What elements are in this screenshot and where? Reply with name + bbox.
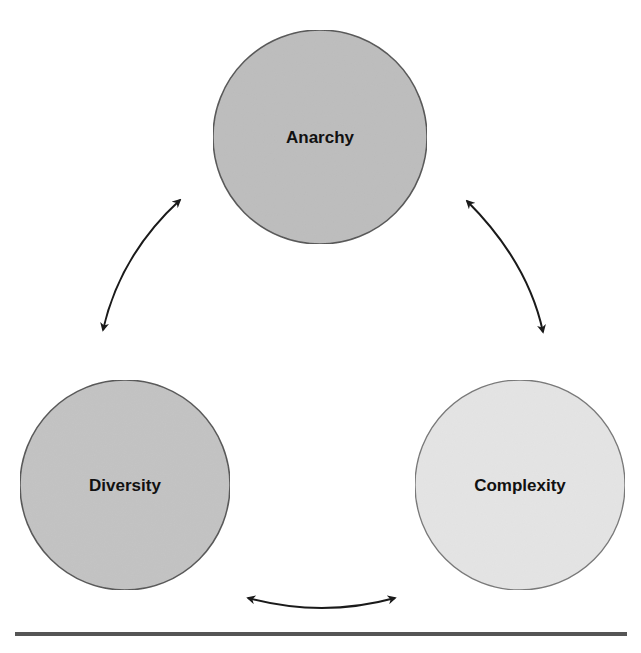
diversity-label: Diversity: [89, 476, 161, 495]
node-diversity: Diversity: [20, 380, 230, 590]
cycle-diagram: Anarchy Diversity Complexity: [0, 0, 641, 653]
complexity-label: Complexity: [474, 476, 566, 495]
bidirectional-arrow-diversity-complexity: [248, 598, 395, 608]
bottom-rule: [15, 632, 627, 636]
node-complexity: Complexity: [415, 380, 625, 590]
bidirectional-arrow-anarchy-diversity: [103, 200, 180, 330]
node-anarchy: Anarchy: [213, 30, 427, 244]
anarchy-label: Anarchy: [286, 128, 355, 147]
bidirectional-arrow-anarchy-complexity: [467, 201, 543, 332]
